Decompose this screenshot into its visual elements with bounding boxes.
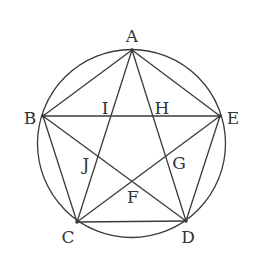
label-d: D [181, 227, 195, 247]
diagonal-ac [77, 50, 132, 222]
vertex-dot-e [218, 114, 222, 118]
label-c: C [61, 227, 74, 247]
vertex-dot-a [130, 48, 134, 52]
segment-cd [77, 221, 186, 222]
diagonal-bd [43, 116, 186, 221]
vertex-dot-c [75, 220, 79, 224]
pentagon-diagram: A B E C D I H J G F [0, 0, 265, 269]
label-a: A [125, 26, 139, 46]
circumscribed-circle [38, 50, 226, 238]
diagonal-ad [132, 50, 186, 221]
label-f: F [127, 187, 139, 207]
label-j: J [81, 154, 90, 174]
label-g: G [172, 153, 186, 173]
vertex-dot-d [184, 219, 188, 223]
label-b: B [24, 108, 37, 128]
label-e: E [227, 108, 239, 128]
segment-bc [43, 116, 77, 222]
point-labels: A B E C D I H J G F [24, 26, 239, 247]
diagonal-ce [77, 116, 220, 222]
segment-ea [132, 50, 220, 116]
vertex-dot-b [41, 114, 45, 118]
label-i: I [102, 98, 109, 118]
label-h: H [155, 98, 170, 118]
